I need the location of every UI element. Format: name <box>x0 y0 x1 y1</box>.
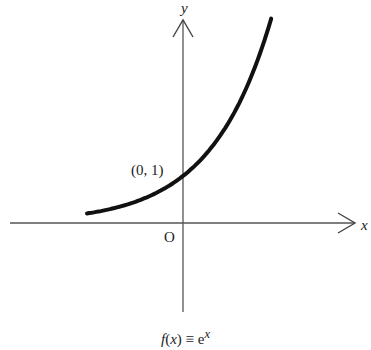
y-axis-label: y <box>179 0 188 16</box>
exponential-curve <box>87 19 271 214</box>
point-annotation: (0, 1) <box>131 162 164 179</box>
x-axis-label: x <box>360 217 368 233</box>
exponential-graph: y x O (0, 1) <box>0 0 371 350</box>
origin-label: O <box>164 229 175 245</box>
function-caption: f(x) ≡ ex <box>0 327 371 348</box>
